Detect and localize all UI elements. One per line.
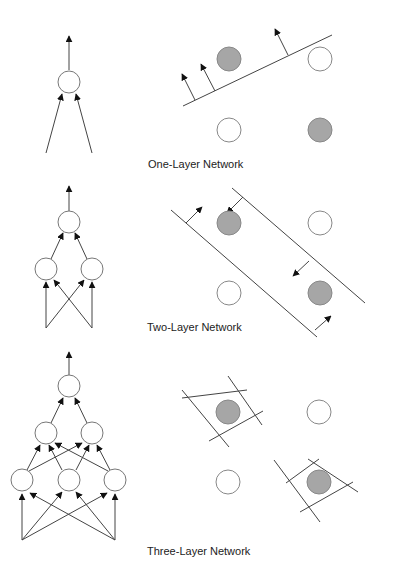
hidden-edge — [51, 233, 63, 259]
output-node — [58, 375, 80, 397]
point-empty — [307, 400, 331, 424]
normal-arrow — [201, 64, 215, 91]
diagram-canvas — [0, 0, 399, 567]
decision-boundary-upper — [232, 188, 365, 303]
input-edge — [46, 94, 62, 153]
one-layer-network-diagram — [46, 36, 92, 153]
input-edge — [30, 493, 115, 540]
hidden-edge — [49, 445, 62, 470]
point-filled — [216, 400, 240, 424]
normal-arrow — [293, 261, 309, 276]
point-filled — [307, 470, 331, 494]
three-layer-caption: Three-Layer Network — [147, 545, 250, 557]
output-node — [58, 71, 80, 93]
hidden-node — [35, 258, 57, 280]
hidden-node — [81, 422, 103, 444]
point-filled — [308, 281, 332, 305]
point-filled — [217, 47, 241, 71]
three-layer-decision-space — [182, 376, 358, 522]
normal-arrow — [275, 29, 288, 55]
hidden-node — [81, 258, 103, 280]
one-layer-caption: One-Layer Network — [148, 158, 243, 170]
decision-boundary — [183, 35, 332, 106]
input-edge — [22, 493, 107, 540]
point-empty — [308, 47, 332, 71]
hidden-edge — [75, 233, 87, 259]
output-node — [58, 211, 80, 233]
hidden-node — [35, 422, 57, 444]
hidden-node — [11, 469, 33, 491]
input-edge — [54, 280, 92, 328]
normal-arrow — [315, 316, 331, 330]
hidden-edge — [75, 398, 87, 423]
point-empty — [216, 470, 240, 494]
point-filled — [217, 211, 241, 235]
input-edge — [76, 94, 92, 153]
normal-arrow — [186, 207, 202, 223]
hidden-edge — [51, 398, 63, 423]
point-empty — [217, 281, 241, 305]
boundary — [182, 390, 247, 398]
point-filled — [308, 118, 332, 142]
hidden-node — [58, 469, 80, 491]
normal-arrow — [182, 74, 195, 100]
hidden-node — [104, 469, 126, 491]
three-layer-network-diagram — [11, 352, 126, 540]
input-edge — [46, 280, 84, 328]
one-layer-decision-space — [182, 29, 332, 142]
hidden-edge — [55, 443, 108, 471]
two-layer-network-diagram — [35, 186, 103, 328]
two-layer-caption: Two-Layer Network — [147, 321, 242, 333]
two-layer-decision-space — [171, 188, 365, 337]
point-empty — [217, 118, 241, 142]
point-empty — [308, 211, 332, 235]
